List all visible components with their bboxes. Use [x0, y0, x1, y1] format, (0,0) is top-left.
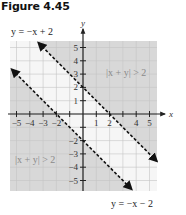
y-tick-label: 5: [74, 43, 79, 53]
y-tick-label: −3: [68, 149, 78, 159]
region-label-lower: |x + y| > 2: [15, 154, 55, 165]
x-axis-label: x: [168, 109, 173, 119]
region-label-upper: |x + y| > 2: [106, 67, 146, 78]
x-tick-label: −3: [38, 118, 48, 128]
x-tick-label: 1: [94, 118, 99, 128]
y-axis-label: y: [80, 18, 85, 28]
x-tick-label: −4: [25, 118, 35, 128]
inequality-graph: −5−4−3−2124554321−2−3−4−5xyy = −x + 2y =…: [0, 0, 186, 215]
y-tick-label: 1: [74, 96, 79, 106]
line-label-upper: y = −x + 2: [11, 26, 53, 37]
line-label-lower: y = −x − 2: [111, 198, 153, 209]
y-tick-label: 4: [74, 56, 79, 66]
y-tick-label: 2: [74, 82, 79, 92]
x-tick-label: −2: [52, 118, 62, 128]
y-tick-label: −4: [68, 162, 78, 172]
y-tick-label: −5: [68, 176, 78, 186]
x-tick-label: 2: [107, 118, 112, 128]
x-tick-label: −5: [12, 118, 22, 128]
x-tick-label: 5: [147, 118, 152, 128]
y-tick-label: −2: [68, 136, 78, 146]
x-tick-label: 4: [134, 118, 139, 128]
y-tick-label: 3: [74, 69, 79, 79]
